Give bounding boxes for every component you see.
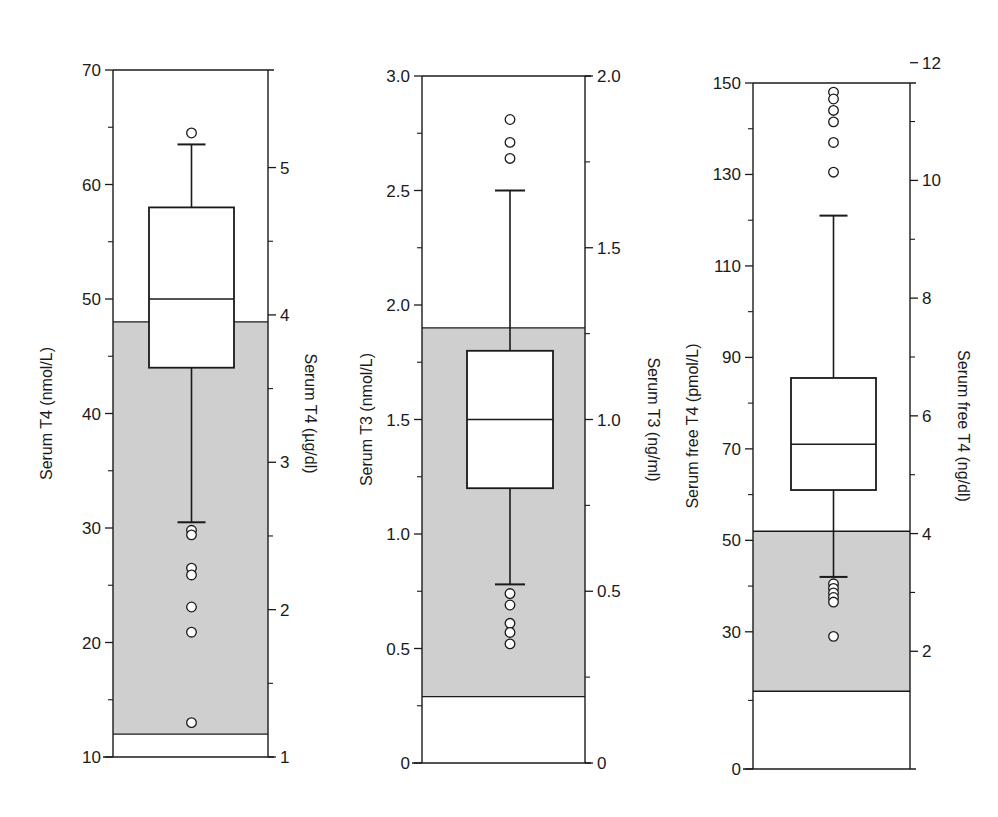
left-tick-label: 70 [82,61,101,80]
left-axis-title: Serum T3 (nmol/L) [358,353,375,486]
left-tick-label: 20 [82,634,101,653]
left-tick-label: 40 [82,405,101,424]
outlier-point [187,602,197,612]
left-tick-label: 0 [732,760,741,779]
left-tick-label: 150 [713,74,741,93]
right-tick-label: 0 [597,754,606,773]
left-axis-title: Serum free T4 (pmol/L) [684,343,701,508]
iqr-box [791,378,876,490]
right-tick-label: 0.5 [597,582,621,601]
right-tick-label: 1 [280,748,289,767]
outlier-point [829,167,839,177]
right-tick-label: 3 [280,453,289,472]
right-tick-label: 4 [280,306,289,325]
left-tick-label: 3.0 [386,67,410,86]
outlier-point [505,619,515,629]
left-tick-label: 2.5 [386,182,410,201]
outlier-point [187,128,197,138]
right-tick-label: 2 [922,642,931,661]
outlier-point [505,138,515,148]
thyroid-boxplot-figure: 1020304050607012345Serum T4 (nmol/L)Seru… [0,0,998,817]
iqr-box [149,207,234,367]
outlier-point [829,597,839,607]
right-tick-label: 10 [922,171,941,190]
left-tick-label: 90 [722,348,741,367]
right-tick-label: 12 [922,54,941,73]
right-tick-label: 1.5 [597,239,621,258]
right-axis-title: Serum T4 (µg/dl) [302,353,319,473]
left-tick-label: 10 [82,748,101,767]
right-tick-label: 5 [280,159,289,178]
outlier-point [505,639,515,649]
outlier-point [505,115,515,125]
right-tick-label: 6 [922,407,931,426]
left-tick-label: 1.5 [386,411,410,430]
left-tick-label: 130 [713,165,741,184]
outlier-point [829,138,839,148]
right-tick-label: 8 [922,289,931,308]
left-tick-label: 70 [722,440,741,459]
outlier-point [187,627,197,637]
boxplot-panel-2: 00.51.01.52.02.53.000.51.01.52.0Serum T3… [358,67,662,773]
right-tick-label: 4 [922,525,931,544]
outlier-point [187,570,197,580]
right-tick-label: 1.0 [597,411,621,430]
outlier-point [187,530,197,540]
outlier-point [505,589,515,599]
left-tick-label: 0.5 [386,640,410,659]
right-axis-title: Serum free T4 (ng/dl) [955,350,972,502]
outlier-point [829,632,839,642]
outlier-point [829,94,839,104]
left-tick-label: 110 [714,257,741,276]
left-tick-label: 1.0 [386,525,410,544]
left-tick-label: 2.0 [386,296,410,315]
outlier-point [505,154,515,164]
boxplot-panel-3: 03050709011013015024681012Serum free T4 … [684,54,972,779]
left-tick-label: 0 [401,754,410,773]
left-tick-label: 30 [82,519,101,538]
reference-range-band [753,531,910,691]
right-tick-label: 2 [280,601,289,620]
outlier-point [187,718,197,728]
outlier-point [505,600,515,610]
outlier-point [505,628,515,638]
boxplot-panel-1: 1020304050607012345Serum T4 (nmol/L)Seru… [38,61,319,767]
left-axis-title: Serum T4 (nmol/L) [38,347,55,480]
left-tick-label: 50 [722,531,741,550]
outlier-point [829,106,839,116]
left-tick-label: 50 [82,290,101,309]
outlier-point [829,117,839,127]
left-tick-label: 60 [82,176,101,195]
left-tick-label: 30 [722,623,741,642]
right-tick-label: 2.0 [597,67,621,86]
right-axis-title: Serum T3 (ng/ml) [645,357,662,481]
